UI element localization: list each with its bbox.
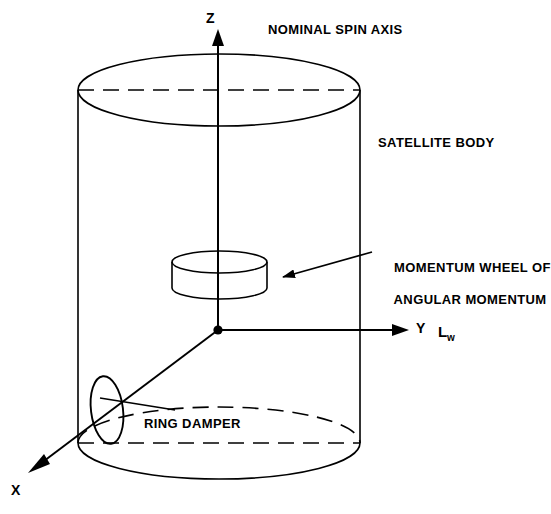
momentum-wheel-label-line2: ANGULAR MOMENTUM — [394, 292, 547, 307]
label-satellite-body: SATELLITE BODY — [378, 135, 495, 151]
body-bottom-rim-front — [78, 443, 360, 479]
ring-damper-ellipse — [87, 374, 127, 445]
axis-label-z: Z — [206, 10, 215, 27]
label-nominal-spin-axis: NOMINAL SPIN AXIS — [268, 22, 403, 38]
z-axis-arrowhead — [212, 29, 224, 46]
wheel-top-rim — [172, 251, 267, 273]
momentum-wheel-disk — [172, 251, 267, 299]
x-axis-arrowhead — [28, 454, 50, 473]
momentum-symbol-letter: L — [438, 323, 447, 340]
label-ring-damper: RING DAMPER — [144, 416, 241, 432]
momentum-wheel-label-line1: MOMENTUM WHEEL OF — [394, 260, 551, 275]
satellite-diagram-figure: Z Y X NOMINAL SPIN AXIS SATELLITE BODY M… — [0, 0, 551, 514]
wheel-bottom-arc — [172, 288, 267, 299]
origin-point — [213, 325, 222, 334]
momentum-wheel-leader — [283, 252, 372, 277]
axis-label-x: X — [11, 482, 21, 499]
momentum-symbol-subscript: w — [447, 332, 455, 343]
label-momentum-wheel: MOMENTUM WHEEL OF ANGULAR MOMENTUM Lw — [378, 244, 551, 376]
x-axis-line — [40, 330, 218, 464]
ring-damper-ring — [87, 374, 127, 445]
ring-damper-leader — [100, 398, 175, 410]
momentum-wheel-symbol: Lw — [378, 323, 551, 344]
